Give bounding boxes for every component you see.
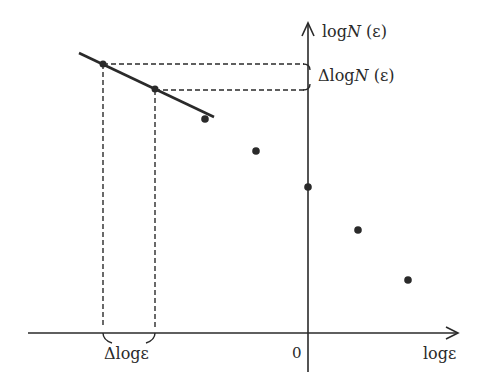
dashed-guides — [103, 64, 304, 327]
x-axis-label: logε — [423, 344, 456, 363]
y-label-prefix: log — [322, 22, 347, 41]
delta-y-arg: (ε) — [374, 66, 395, 85]
diagram-canvas — [0, 0, 487, 391]
delta-y-brace — [303, 64, 310, 90]
data-points — [100, 61, 412, 284]
delta-y-label: ΔlogN (ε) — [318, 66, 394, 85]
y-axis — [302, 23, 314, 372]
fractal-dimension-diagram: logN (ε) ΔlogN (ε) Δlogε 0 logε — [0, 0, 487, 391]
delta-y-prefix: Δlog — [318, 66, 355, 85]
delta-y-var: N — [355, 66, 369, 85]
y-axis-label: logN (ε) — [322, 22, 387, 41]
origin-label: 0 — [292, 344, 302, 362]
x-axis — [28, 327, 458, 339]
fit-line — [79, 53, 214, 117]
y-label-var: N — [347, 22, 361, 41]
delta-x-label: Δlogε — [104, 344, 149, 363]
y-label-arg: (ε) — [366, 22, 387, 41]
delta-x-brace — [103, 333, 155, 343]
